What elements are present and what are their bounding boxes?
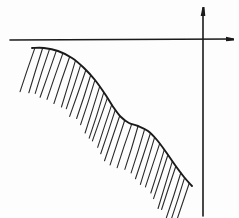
hatch-line	[105, 116, 120, 160]
x-axis	[10, 39, 233, 40]
hatch-line	[117, 125, 131, 168]
hatch-line	[81, 81, 95, 125]
hatch-line	[145, 144, 159, 187]
hatch-line	[131, 130, 144, 173]
hatch-line	[140, 138, 154, 184]
hatch-lines-group	[20, 48, 189, 218]
x-axis-arrow-icon	[226, 37, 234, 42]
hatch-line	[47, 54, 62, 99]
hatch-line	[158, 161, 172, 208]
sketch-drawing	[0, 0, 239, 218]
hatch-line	[125, 126, 138, 169]
axes-group	[10, 7, 234, 216]
hatch-line	[61, 61, 75, 107]
hatch-line	[77, 76, 91, 119]
hatch-line	[20, 48, 35, 91]
boundary-curve	[32, 48, 192, 186]
hatch-line	[110, 121, 125, 165]
hatch-line	[29, 48, 43, 93]
y-axis-arrow-icon	[201, 7, 206, 16]
hatch-line	[40, 51, 56, 97]
hatch-line	[54, 57, 70, 103]
hatch-line	[66, 66, 80, 109]
figure-canvas	[0, 0, 239, 218]
hatch-line	[35, 50, 49, 94]
hatch-line	[135, 134, 150, 179]
